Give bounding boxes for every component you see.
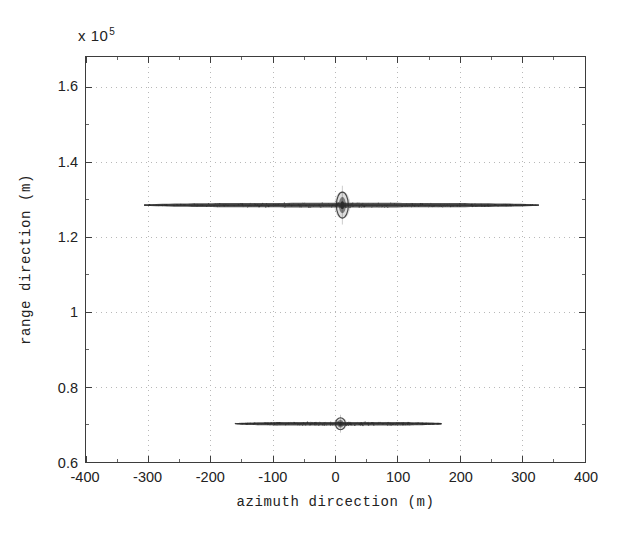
x-tick-label: 400 [574, 469, 598, 485]
data-series-layer [86, 57, 585, 462]
exponent-prefix: x 10 [78, 27, 108, 44]
x-tick-label: 0 [331, 469, 339, 485]
x-tick-label: -100 [258, 469, 287, 485]
x-tick-label: -300 [133, 469, 162, 485]
y-tick-label: 1.2 [58, 229, 78, 245]
x-tick-label: -400 [70, 469, 99, 485]
plot-axes-frame [85, 56, 586, 463]
scatter-plot-figure: x 105 0.60.811.21.41.6 -400-300-200-1000… [0, 0, 634, 533]
y-tick-label: 1.4 [58, 154, 78, 170]
x-axis-tick-labels: -400-300-200-1000100200300400 [85, 469, 586, 491]
y-tick-label: 1 [70, 304, 78, 320]
x-tick-label: -200 [196, 469, 225, 485]
x-tick-label: 200 [449, 469, 473, 485]
grid-lines [86, 57, 585, 462]
y-axis-tick-labels: 0.60.811.21.41.6 [0, 56, 78, 463]
x-tick-label: 300 [511, 469, 535, 485]
x-tick-label: 100 [386, 469, 410, 485]
y-tick-label: 0.8 [58, 380, 78, 396]
y-axis-title: range direction (m) [14, 56, 38, 463]
axis-tick-marks [86, 57, 585, 462]
exponent-power: 5 [109, 26, 115, 37]
y-tick-label: 1.6 [58, 78, 78, 94]
x-axis-title: azimuth dircection (m) [85, 494, 586, 510]
y-axis-exponent-label: x 105 [78, 26, 115, 44]
